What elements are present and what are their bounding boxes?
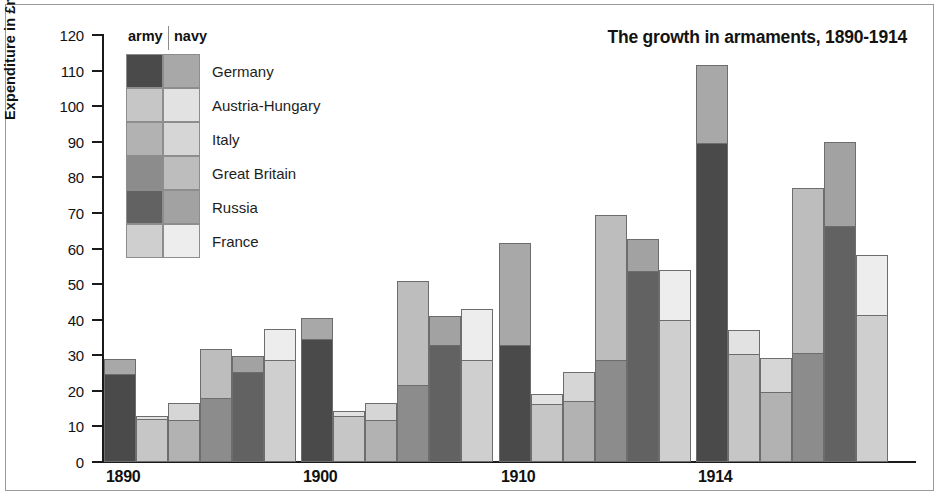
y-tick-50 xyxy=(92,283,102,285)
bar-segment-army xyxy=(334,416,364,461)
legend-swatch-navy-austria-hungary xyxy=(163,88,200,122)
bar-segment-navy xyxy=(398,282,428,387)
bar-segment-army xyxy=(233,372,263,461)
legend-swatch-navy-russia xyxy=(163,190,200,224)
y-tick-100 xyxy=(92,105,102,107)
bar-segment-army xyxy=(265,360,295,461)
legend-swatch-army-france xyxy=(126,224,163,258)
bar-segment-army xyxy=(398,385,428,462)
bar-segment-navy xyxy=(697,66,727,144)
legend-header-army: army xyxy=(128,28,163,44)
x-group-label-1914: 1914 xyxy=(698,468,732,486)
y-tick-20 xyxy=(92,390,102,392)
bar-1890-great-britain xyxy=(200,349,232,462)
bar-segment-army xyxy=(729,354,759,461)
y-tick-90 xyxy=(92,141,102,143)
bar-segment-army xyxy=(169,420,199,461)
legend-item-germany[interactable]: Germany xyxy=(126,54,200,88)
bar-segment-army xyxy=(825,226,855,461)
y-tick-40 xyxy=(92,319,102,321)
bar-segment-army xyxy=(628,271,658,461)
bar-segment-navy xyxy=(302,319,332,341)
bar-1914-france xyxy=(856,255,888,462)
bar-1914-italy xyxy=(760,358,792,462)
y-tick-label-80: 80 xyxy=(42,169,84,186)
bar-segment-navy xyxy=(628,240,658,273)
bar-1910-italy xyxy=(563,372,595,462)
x-group-label-1900: 1900 xyxy=(303,468,337,486)
bar-segment-navy xyxy=(201,350,231,400)
legend-swatch-navy-france xyxy=(163,224,200,258)
bar-1890-germany xyxy=(104,359,136,462)
bar-1900-russia xyxy=(429,316,461,462)
bar-1910-germany xyxy=(499,243,531,462)
legend-swatch-navy-germany xyxy=(163,54,200,88)
legend-item-france[interactable]: France xyxy=(126,224,200,258)
legend-label-austria-hungary: Austria-Hungary xyxy=(212,97,320,114)
legend-header: army navy xyxy=(126,28,266,50)
bar-segment-army xyxy=(500,345,530,461)
bar-1900-germany xyxy=(301,318,333,462)
y-tick-label-20: 20 xyxy=(42,382,84,399)
bar-segment-army xyxy=(660,320,690,461)
bar-1900-italy xyxy=(365,403,397,462)
bar-1890-france xyxy=(264,329,296,462)
y-tick-label-110: 110 xyxy=(42,62,84,79)
y-tick-0 xyxy=(92,461,102,463)
chart-screenshot: The growth in armaments, 1890-1914 Expen… xyxy=(0,0,939,502)
y-tick-label-90: 90 xyxy=(42,133,84,150)
bar-segment-army xyxy=(532,404,562,461)
chart-legend: army navy GermanyAustria-HungaryItalyGre… xyxy=(126,54,200,258)
bar-1910-great-britain xyxy=(595,215,627,462)
legend-swatch-army-austria-hungary xyxy=(126,88,163,122)
bar-segment-army xyxy=(761,392,791,461)
bar-segment-army xyxy=(201,398,231,461)
bar-1914-germany xyxy=(696,65,728,462)
y-tick-label-50: 50 xyxy=(42,276,84,293)
y-tick-label-10: 10 xyxy=(42,418,84,435)
y-tick-label-30: 30 xyxy=(42,347,84,364)
bar-segment-navy xyxy=(857,256,887,317)
bar-segment-army xyxy=(430,345,460,461)
legend-swatch-navy-italy xyxy=(163,122,200,156)
legend-label-italy: Italy xyxy=(212,131,240,148)
legend-item-austria-hungary[interactable]: Austria-Hungary xyxy=(126,88,200,122)
bar-segment-army xyxy=(462,360,492,461)
legend-item-italy[interactable]: Italy xyxy=(126,122,200,156)
bar-segment-army xyxy=(105,374,135,461)
legend-swatch-army-italy xyxy=(126,122,163,156)
bar-1900-austria-hungary xyxy=(333,411,365,462)
bar-segment-navy xyxy=(825,143,855,228)
bar-segment-army xyxy=(857,315,887,461)
legend-label-france: France xyxy=(212,233,259,250)
bar-segment-navy xyxy=(564,373,594,402)
y-tick-label-40: 40 xyxy=(42,311,84,328)
legend-item-russia[interactable]: Russia xyxy=(126,190,200,224)
bar-segment-army xyxy=(596,360,626,461)
x-group-label-1890: 1890 xyxy=(106,468,140,486)
bar-1900-france xyxy=(461,309,493,462)
bar-1914-russia xyxy=(824,142,856,462)
bar-segment-navy xyxy=(430,317,460,347)
bar-segment-navy xyxy=(793,189,823,355)
bar-segment-army xyxy=(366,420,396,461)
legend-label-great-britain: Great Britain xyxy=(212,165,296,182)
y-tick-30 xyxy=(92,354,102,356)
bar-segment-army xyxy=(137,419,167,461)
y-tick-label-60: 60 xyxy=(42,240,84,257)
bar-1890-italy xyxy=(168,403,200,462)
y-tick-label-120: 120 xyxy=(42,27,84,44)
bar-segment-navy xyxy=(596,216,626,362)
chart-frame: The growth in armaments, 1890-1914 Expen… xyxy=(5,4,934,491)
bar-segment-army xyxy=(302,339,332,461)
bar-segment-navy xyxy=(265,330,295,362)
legend-item-great-britain[interactable]: Great Britain xyxy=(126,156,200,190)
legend-label-germany: Germany xyxy=(212,63,274,80)
y-axis-label: Expenditure in £millions xyxy=(2,0,18,120)
y-tick-110 xyxy=(92,70,102,72)
bar-1910-russia xyxy=(627,239,659,462)
bar-segment-navy xyxy=(500,244,530,347)
bar-1914-great-britain xyxy=(792,188,824,462)
y-tick-label-70: 70 xyxy=(42,204,84,221)
y-tick-10 xyxy=(92,425,102,427)
